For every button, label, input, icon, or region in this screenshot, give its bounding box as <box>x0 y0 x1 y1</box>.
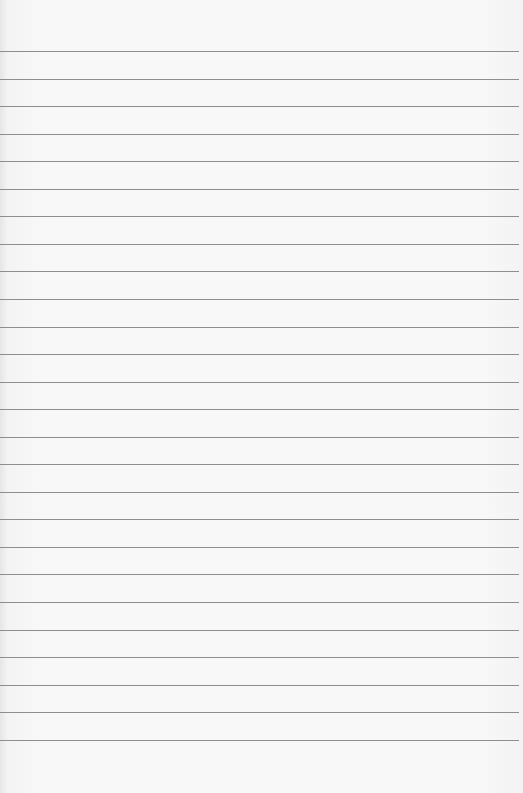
ruled-line <box>0 271 519 272</box>
ruled-line <box>0 685 519 686</box>
lined-paper-sheet <box>0 0 523 793</box>
ruled-line <box>0 106 519 107</box>
ruled-line <box>0 216 519 217</box>
ruled-line <box>0 519 519 520</box>
ruled-line <box>0 492 519 493</box>
ruled-line <box>0 547 519 548</box>
ruled-line <box>0 134 519 135</box>
ruled-line <box>0 740 519 741</box>
ruled-line <box>0 189 519 190</box>
ruled-line <box>0 712 519 713</box>
ruled-line <box>0 602 519 603</box>
ruled-line <box>0 437 519 438</box>
ruled-line <box>0 354 519 355</box>
ruled-line <box>0 382 519 383</box>
ruled-line <box>0 464 519 465</box>
ruled-line <box>0 299 519 300</box>
ruled-line <box>0 657 519 658</box>
ruled-line <box>0 409 519 410</box>
ruled-line <box>0 327 519 328</box>
ruled-line <box>0 79 519 80</box>
ruled-line <box>0 630 519 631</box>
ruled-line <box>0 244 519 245</box>
ruled-line <box>0 51 519 52</box>
ruled-line <box>0 161 519 162</box>
ruled-line <box>0 574 519 575</box>
